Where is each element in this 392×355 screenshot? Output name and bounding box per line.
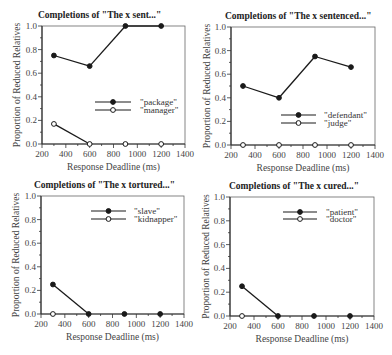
x-tick-label: 800 (296, 150, 310, 160)
chart-panel-tortured: Completions of "The x tortured..." Respo… (11, 180, 193, 343)
x-axis-label: Response Deadline (ms) (257, 163, 350, 174)
data-point-filled (159, 24, 164, 29)
plot-area: 0.00.20.40.60.81.02004006008001000120014… (215, 22, 385, 160)
data-point-open (349, 143, 354, 148)
data-point-open (159, 142, 164, 147)
y-tick-label: 0.4 (25, 262, 37, 272)
series-line (54, 56, 90, 67)
y-tick-label: 0.8 (26, 45, 38, 55)
data-point-filled (122, 312, 127, 317)
x-axis-label: Response Deadline (ms) (256, 334, 349, 345)
legend-marker-open (106, 217, 111, 222)
chart-title: Completions of "The x sent..." (38, 10, 161, 20)
y-tick-label: 0.6 (215, 69, 227, 79)
x-tick-label: 600 (272, 150, 286, 160)
data-point-open (123, 142, 128, 147)
legend-marker-filled (106, 209, 111, 214)
legend-marker-open (296, 121, 301, 126)
data-point-open (51, 312, 56, 317)
x-tick-label: 1000 (318, 150, 337, 160)
y-tick-label: 0.0 (215, 140, 227, 150)
data-point-open (52, 122, 57, 127)
data-point-filled (277, 95, 282, 100)
legend-label-open: "kidnapper" (134, 214, 178, 224)
legend-label-open: "doctor" (326, 214, 357, 224)
x-tick-label: 800 (295, 321, 309, 331)
x-tick-label: 800 (106, 319, 120, 329)
legend-marker-open (298, 217, 303, 222)
x-tick-label: 600 (83, 149, 97, 159)
x-tick-label: 400 (247, 321, 261, 331)
data-point-filled (52, 53, 57, 58)
chart-title: Completions of "The x sentenced..." (225, 11, 371, 21)
x-tick-label: 1400 (366, 150, 385, 160)
x-tick-label: 400 (59, 149, 73, 159)
x-tick-label: 200 (35, 149, 49, 159)
data-point-filled (313, 54, 318, 59)
y-tick-label: 0.8 (25, 215, 37, 225)
x-tick-label: 1200 (342, 150, 361, 160)
x-tick-label: 200 (34, 319, 48, 329)
y-axis-label: Proportion of Reduced Relatives (202, 24, 212, 149)
x-tick-label: 600 (82, 319, 96, 329)
y-tick-label: 1.0 (25, 191, 37, 201)
data-point-filled (123, 24, 128, 29)
legend-marker-filled (298, 210, 303, 215)
x-tick-label: 1400 (176, 149, 195, 159)
series-line (53, 285, 89, 315)
plot-frame (231, 27, 375, 145)
data-point-filled (312, 314, 317, 319)
x-tick-label: 200 (223, 321, 237, 331)
plot-area: 0.00.20.40.60.81.02004006008001000120014… (25, 191, 194, 329)
series-line (54, 124, 90, 144)
y-tick-label: 0.4 (215, 93, 227, 103)
series-line (90, 26, 126, 66)
chart-panel-sentenced: Completions of "The x sentenced..." Resp… (202, 11, 384, 174)
y-tick-label: 0.2 (214, 287, 225, 297)
plot-area: 0.00.20.40.60.81.02004006008001000120014… (214, 192, 384, 331)
x-tick-label: 1200 (151, 319, 170, 329)
y-axis-label: Proportion of Reduced Relatives (201, 194, 211, 319)
x-axis-label: Response Deadline (ms) (67, 162, 160, 173)
x-tick-label: 1400 (365, 321, 384, 331)
y-tick-label: 0.0 (25, 309, 37, 319)
y-tick-label: 0.2 (25, 285, 36, 295)
x-tick-label: 400 (248, 150, 262, 160)
y-tick-label: 0.6 (26, 68, 38, 78)
chart-title: Completions of "The x cured..." (229, 181, 359, 191)
data-point-filled (276, 314, 281, 319)
x-tick-label: 1400 (175, 319, 194, 329)
y-tick-label: 0.0 (26, 139, 38, 149)
data-point-open (240, 314, 245, 319)
y-tick-label: 1.0 (26, 21, 38, 31)
legend-marker-open (111, 108, 116, 113)
y-tick-label: 0.2 (215, 116, 226, 126)
data-point-filled (51, 282, 56, 287)
series-line (279, 57, 315, 98)
legend-marker-filled (111, 100, 116, 105)
y-tick-label: 0.4 (214, 263, 226, 273)
figure-canvas: Completions of "The x sent..." Response … (0, 0, 392, 355)
x-tick-label: 800 (107, 149, 121, 159)
series-line (315, 57, 351, 68)
legend-marker-filled (296, 113, 301, 118)
data-point-open (241, 143, 246, 148)
x-tick-label: 1000 (128, 149, 147, 159)
chart-title: Completions of "The x tortured..." (34, 180, 175, 190)
y-tick-label: 0.4 (26, 92, 38, 102)
x-tick-label: 1000 (127, 319, 146, 329)
data-point-filled (348, 314, 353, 319)
series-line (243, 86, 279, 98)
data-point-filled (86, 312, 91, 317)
x-tick-label: 1200 (152, 149, 171, 159)
series-line (242, 286, 278, 316)
y-tick-label: 0.2 (26, 115, 37, 125)
chart-panel-cured: Completions of "The x cured..." Response… (201, 181, 383, 345)
x-tick-label: 1200 (341, 321, 360, 331)
y-axis-label: Proportion of Reduced Relatives (12, 23, 22, 148)
y-tick-label: 0.6 (214, 240, 226, 250)
x-tick-label: 400 (58, 319, 72, 329)
plot-frame (42, 26, 185, 144)
x-tick-label: 200 (224, 150, 238, 160)
data-point-filled (349, 65, 354, 70)
